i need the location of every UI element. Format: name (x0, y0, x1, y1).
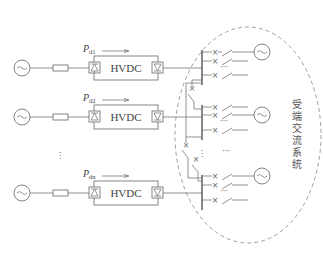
circuit-breaker-icon: × (212, 172, 219, 181)
circuit-breaker-icon: × (193, 155, 200, 164)
svg-text:统: 统 (292, 158, 302, 170)
hvdc-label: HVDC (110, 187, 141, 199)
hvdc-link-2: HVDC Pd2 (14, 92, 202, 129)
receiving-system-label: 受 端 交 流 系 统 (292, 99, 302, 170)
hvdc-system-diagram: HVDC Pd1 HVDC Pd2 ⋮ (0, 0, 323, 254)
svg-text:端: 端 (292, 110, 302, 122)
disconnect-switch-icon (222, 198, 232, 204)
bus-tie-lines: × × × (182, 80, 202, 181)
circuit-breaker-icon: × (212, 181, 219, 190)
receiving-bus-n: × × ··· × (202, 168, 270, 210)
disconnect-switch-icon (192, 165, 198, 172)
circuit-breaker-icon: × (189, 84, 196, 93)
sending-ellipsis: ⋮ (56, 151, 64, 160)
hvdc-link-n: HVDC Pdn (14, 168, 202, 205)
power-label-pdn: Pdn (82, 168, 96, 180)
disconnect-switch-icon (222, 105, 232, 111)
hvdc-label: HVDC (110, 111, 141, 123)
power-label-pd1: Pd1 (82, 43, 96, 55)
svg-text:交: 交 (292, 122, 302, 134)
circuit-breaker-icon: × (212, 48, 219, 57)
hvdc-label: HVDC (110, 62, 141, 74)
disconnect-switch-icon (222, 73, 232, 79)
feeder-ellipsis: ··· (220, 187, 228, 196)
circuit-breaker-icon: × (183, 141, 190, 150)
impedance-icon (53, 190, 68, 196)
hvdc-link-1: HVDC Pd1 (14, 43, 202, 80)
circuit-breaker-icon: × (212, 57, 219, 66)
svg-text:受: 受 (292, 99, 302, 110)
disconnect-switch-icon (222, 128, 232, 134)
disconnect-switch-icon (188, 94, 194, 102)
circuit-breaker-icon: × (212, 71, 219, 80)
receiving-bus-2: × × ··· × ⋮ ··· (198, 103, 270, 158)
svg-text:系: 系 (292, 147, 302, 158)
feeder-ellipsis: ··· (220, 117, 228, 126)
power-label-pd2: Pd2 (82, 92, 96, 104)
disconnect-switch-icon (222, 174, 232, 180)
feeder-ellipsis: ··· (220, 63, 228, 72)
svg-text:流: 流 (292, 134, 302, 146)
circuit-breaker-icon: × (212, 126, 219, 135)
feeder-ellipsis: ··· (222, 147, 230, 156)
impedance-icon (53, 114, 68, 120)
circuit-breaker-icon: × (212, 196, 219, 205)
receiving-bus-1: × × ··· × (202, 44, 270, 85)
disconnect-switch-icon (222, 50, 232, 56)
impedance-icon (53, 65, 68, 71)
disconnect-switch-icon (182, 150, 188, 158)
circuit-breaker-icon: × (212, 111, 219, 120)
